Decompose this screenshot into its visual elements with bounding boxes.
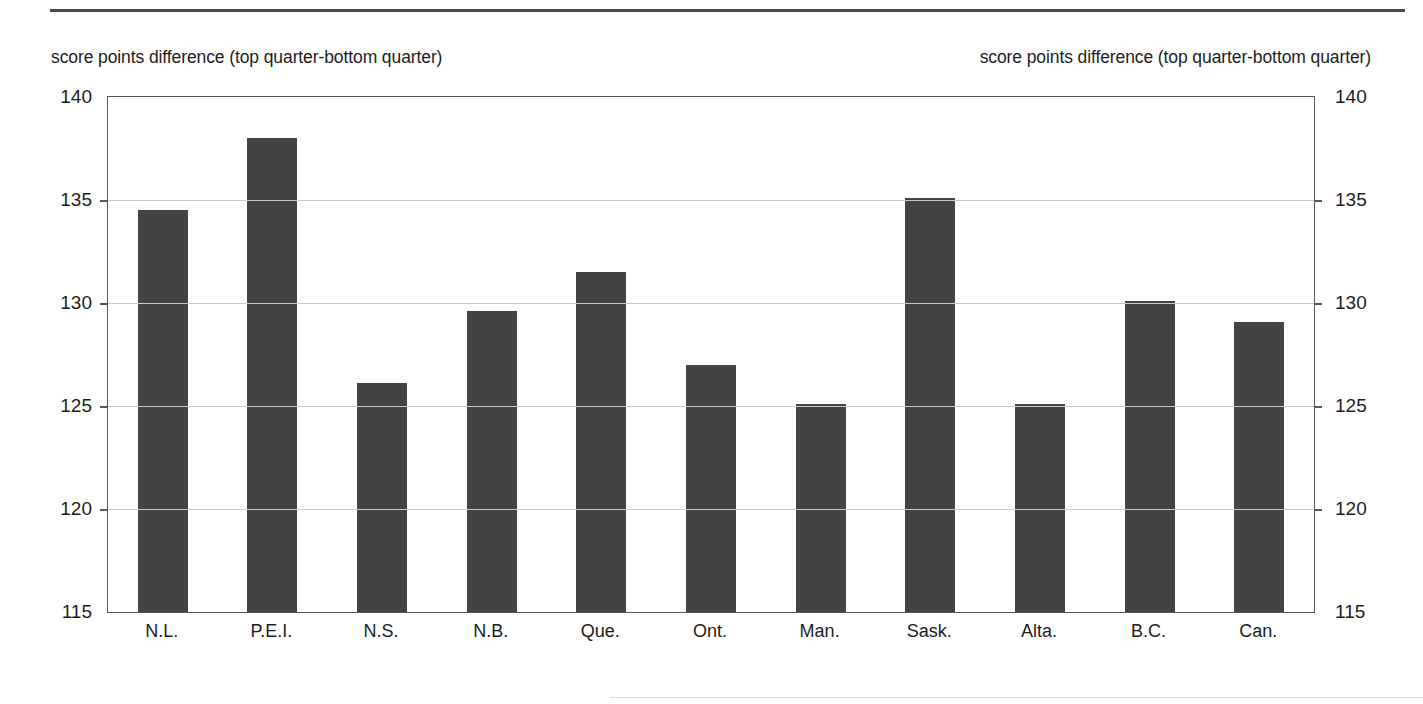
- y-tick-right: [1314, 509, 1322, 511]
- y-tick-label-left: 125: [60, 396, 92, 415]
- y-tick-label-left: 115: [62, 602, 92, 621]
- x-tick-label: B.C.: [1094, 621, 1204, 643]
- x-tick-label: N.L.: [107, 621, 217, 643]
- x-tick-label: Ont.: [655, 621, 765, 643]
- bar: [357, 383, 407, 612]
- y-tick-left: [100, 200, 108, 202]
- y-tick-left: [100, 303, 108, 305]
- gridline: [108, 509, 1314, 510]
- x-tick-label: Sask.: [874, 621, 984, 643]
- bar: [796, 404, 846, 612]
- y-tick-label-right: 130: [1335, 293, 1367, 312]
- y-tick-label-left: 130: [60, 293, 92, 312]
- bars-layer: [108, 97, 1314, 612]
- gridline: [108, 406, 1314, 407]
- right-axis-caption: score points difference (top quarter-bot…: [980, 47, 1371, 68]
- bar: [905, 198, 955, 612]
- x-axis-labels: N.L.P.E.I.N.S.N.B.Que.Ont.Man.Sask.Alta.…: [107, 621, 1315, 651]
- bar: [686, 365, 736, 612]
- y-tick-label-right: 140: [1335, 87, 1367, 106]
- y-tick-right: [1314, 200, 1322, 202]
- y-tick-label-left: 120: [60, 499, 92, 518]
- x-tick-label: N.B.: [436, 621, 546, 643]
- gridline: [108, 303, 1314, 304]
- bar: [1234, 322, 1284, 612]
- y-tick-label-right: 120: [1335, 499, 1367, 518]
- x-tick-label: Que.: [546, 621, 656, 643]
- left-axis-caption: score points difference (top quarter-bot…: [51, 47, 442, 68]
- y-tick-label-left: 140: [60, 87, 92, 106]
- y-tick-right: [1314, 303, 1322, 305]
- y-tick-label-left: 135: [60, 190, 92, 209]
- y-tick-label-right: 115: [1335, 602, 1365, 621]
- bar: [576, 272, 626, 612]
- y-axis-left: 115120125130135140: [40, 96, 92, 613]
- x-tick-label: P.E.I.: [217, 621, 327, 643]
- x-tick-label: Can.: [1203, 621, 1313, 643]
- x-tick-label: Alta.: [984, 621, 1094, 643]
- gridline: [108, 200, 1314, 201]
- bar: [1125, 301, 1175, 612]
- y-tick-left: [100, 406, 108, 408]
- bar: [247, 138, 297, 612]
- x-tick-label: N.S.: [326, 621, 436, 643]
- y-tick-right: [1314, 406, 1322, 408]
- y-tick-label-right: 135: [1335, 190, 1367, 209]
- plot-area: [107, 96, 1315, 613]
- y-tick-label-right: 125: [1335, 396, 1367, 415]
- bar: [1015, 404, 1065, 612]
- bar: [467, 311, 517, 612]
- y-tick-left: [100, 509, 108, 511]
- x-tick-label: Man.: [765, 621, 875, 643]
- top-divider-rule: [50, 9, 1405, 12]
- y-axis-right: 115120125130135140: [1335, 96, 1395, 613]
- bottom-divider-rule: [610, 697, 1423, 698]
- bar: [138, 210, 188, 612]
